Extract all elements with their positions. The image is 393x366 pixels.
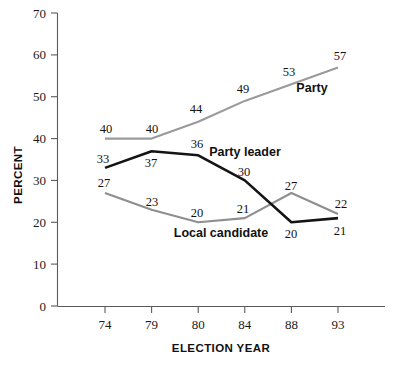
x-tick-label-74: 74 [99, 317, 113, 332]
data-label-leader-84: 30 [238, 165, 251, 179]
y-tick-label-50: 50 [33, 89, 46, 104]
data-label-leader-93: 21 [334, 224, 347, 238]
y-tick-label-60: 60 [33, 47, 46, 62]
series-label-local-candidate: Local candidate [174, 226, 269, 240]
y-tick-label-10: 10 [33, 257, 46, 272]
data-label-leader-79: 37 [145, 156, 158, 170]
x-tick-label-79: 79 [145, 317, 158, 332]
series-line-party [105, 67, 338, 138]
data-label-local-93: 22 [335, 197, 348, 211]
data-label-local-79: 23 [146, 195, 159, 209]
data-label-party-88: 53 [283, 65, 296, 79]
data-label-leader-74: 33 [97, 152, 110, 166]
series-label-party: Party [296, 81, 327, 95]
data-label-local-80: 20 [191, 206, 204, 220]
data-label-party-80: 44 [190, 102, 203, 116]
line-chart: 70 60 50 40 30 20 10 0 74 79 80 84 88 93… [0, 0, 393, 366]
data-label-party-74: 40 [100, 122, 113, 136]
y-tick-label-20: 20 [33, 215, 46, 230]
data-label-party-84: 49 [237, 82, 250, 96]
data-label-local-74: 27 [98, 176, 111, 190]
data-label-party-79: 40 [146, 122, 159, 136]
chart-canvas: 70 60 50 40 30 20 10 0 74 79 80 84 88 93… [0, 0, 393, 366]
x-tick-label-88: 88 [285, 317, 298, 332]
data-label-leader-80: 36 [191, 137, 204, 151]
x-tick-label-80: 80 [192, 317, 205, 332]
series-line-local-candidate [105, 193, 338, 222]
y-tick-label-40: 40 [33, 131, 46, 146]
y-axis-title: PERCENT [12, 146, 24, 204]
data-label-leader-88: 20 [285, 227, 298, 241]
data-label-party-93: 57 [334, 49, 347, 63]
y-tick-label-30: 30 [33, 173, 46, 188]
y-tick-label-70: 70 [33, 6, 46, 21]
x-axis-title: ELECTION YEAR [172, 342, 271, 354]
y-tick-label-0: 0 [40, 299, 47, 314]
data-label-local-84: 21 [237, 202, 250, 216]
series-label-party-leader: Party leader [209, 145, 281, 159]
x-tick-label-84: 84 [238, 317, 252, 332]
x-tick-label-93: 93 [332, 317, 345, 332]
data-label-local-88: 27 [285, 179, 298, 193]
series-line-party-leader [105, 151, 338, 222]
